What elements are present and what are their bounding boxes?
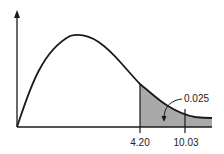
tick-label-4-20: 4.20 bbox=[130, 137, 150, 148]
f-distribution-chart: 0.025 4.20 10.03 bbox=[0, 0, 224, 154]
y-axis-arrow-icon bbox=[14, 10, 20, 18]
density-curve bbox=[17, 35, 212, 127]
tick-label-10-03: 10.03 bbox=[173, 137, 198, 148]
shaded-tail-area bbox=[140, 84, 212, 127]
annotation-label: 0.025 bbox=[184, 93, 209, 104]
